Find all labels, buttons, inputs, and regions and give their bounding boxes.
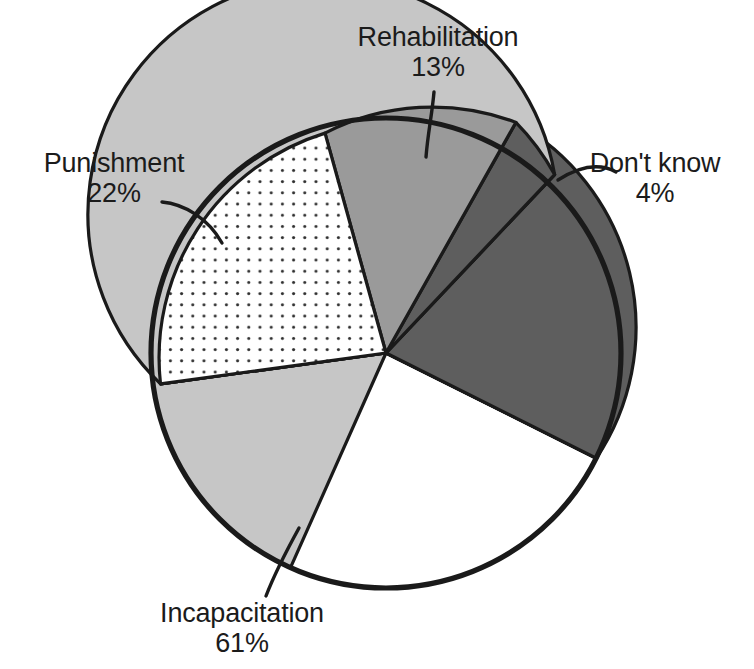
pie-chart-svg [0,0,754,669]
slice-label-punishment-value: 22% [0,178,244,208]
slice-label-dont-know-value: 4% [540,178,754,208]
slice-label-dont-know-name: Don't know [540,148,754,178]
slice-label-rehabilitation: Rehabilitation 13% [293,22,583,82]
slice-label-incapacitation-name: Incapacitation [92,598,392,628]
slice-label-dont-know: Don't know 4% [540,148,754,208]
slice-label-punishment-name: Punishment [0,148,244,178]
slice-label-rehabilitation-name: Rehabilitation [293,22,583,52]
slice-label-punishment: Punishment 22% [0,148,244,208]
slice-label-rehabilitation-value: 13% [293,52,583,82]
slice-label-incapacitation: Incapacitation 61% [92,598,392,658]
pie-chart: Rehabilitation 13% Don't know 4% Punishm… [0,0,754,669]
slice-label-incapacitation-value: 61% [92,628,392,658]
